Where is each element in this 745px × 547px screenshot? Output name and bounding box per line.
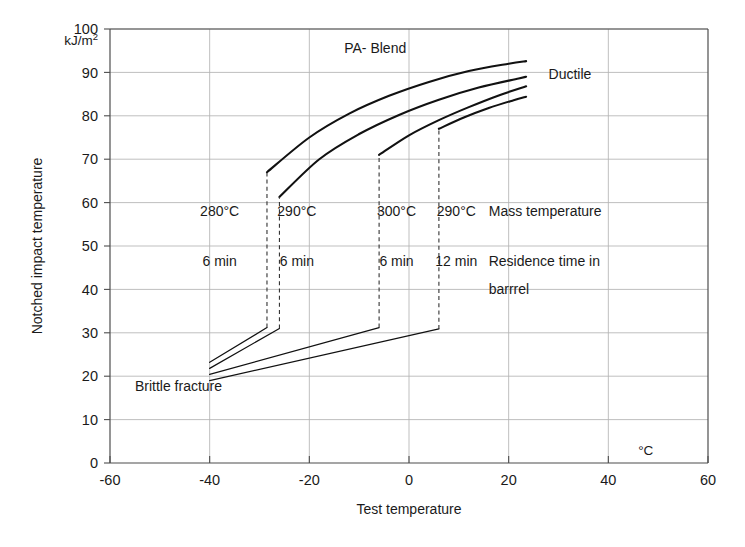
residence-time-value: 6 min: [203, 253, 237, 269]
y-tick-label: 60: [82, 195, 98, 211]
x-axis-title: Test temperature: [356, 501, 461, 517]
x-tick-label: 40: [600, 472, 616, 488]
mass-temperature-value: 290°C: [437, 203, 476, 219]
mass-temperature-annotation: Mass temperature: [489, 203, 602, 219]
x-tick-label: -40: [199, 472, 220, 488]
y-tick-label: 50: [82, 238, 98, 254]
residence-time-annotation-line2: barrrel: [489, 281, 529, 297]
x-tick-label: 20: [501, 472, 517, 488]
residence-time-value: 6 min: [379, 253, 413, 269]
residence-time-value: 12 min: [435, 253, 477, 269]
residence-time-value: 6 min: [280, 253, 314, 269]
y-tick-label: 0: [90, 455, 98, 471]
y-tick-label: 90: [82, 65, 98, 81]
y-tick-label: 80: [82, 108, 98, 124]
y-tick-label: 20: [82, 368, 98, 384]
x-tick-label: 0: [405, 472, 413, 488]
x-tick-label: 60: [700, 472, 716, 488]
y-tick-label: 30: [82, 325, 98, 341]
mass-temperature-value: 290°C: [277, 203, 316, 219]
chart-background: [0, 0, 745, 547]
y-axis-title: Notched impact temperature: [29, 157, 45, 334]
ductile-annotation: Ductile: [549, 66, 592, 82]
notched-impact-chart: 0102030405060708090100 -60-40-200204060 …: [0, 0, 745, 547]
x-tick-label: -20: [299, 472, 320, 488]
chart-container: 0102030405060708090100 -60-40-200204060 …: [0, 0, 745, 547]
y-tick-label: 10: [82, 412, 98, 428]
x-axis-unit-label: °C: [638, 443, 653, 458]
y-tick-label: 70: [82, 151, 98, 167]
residence-time-annotation-line1: Residence time in: [489, 253, 600, 269]
mass-temperature-value: 300°C: [377, 203, 416, 219]
title-annotation: PA- Blend: [344, 40, 406, 56]
mass-temperature-value: 280°C: [200, 203, 239, 219]
brittle-annotation: Brittle fracture: [135, 378, 222, 394]
x-tick-label: -60: [100, 472, 121, 488]
y-tick-label: 40: [82, 282, 98, 298]
y-unit-superscript: 2: [93, 31, 98, 42]
